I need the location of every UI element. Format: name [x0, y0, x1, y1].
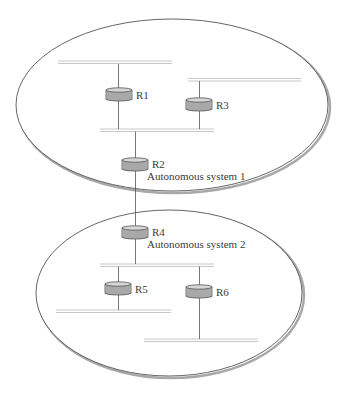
router-icon: [122, 158, 148, 171]
router-label: R2: [152, 158, 165, 170]
router-icon: [122, 226, 148, 239]
router-label: R5: [135, 283, 148, 295]
router-r1: R1: [106, 88, 149, 101]
router-label: R6: [216, 286, 229, 298]
router-label: R3: [216, 99, 229, 111]
router-icon: [105, 282, 131, 295]
router-r5: R5: [105, 282, 148, 295]
network-diagram: R1 R3 R2 R4 R5 R6 Autonomous system 1 Au…: [0, 0, 348, 396]
router-label: R1: [136, 89, 149, 101]
router-icon: [106, 88, 132, 101]
autonomous-system-2: [36, 210, 304, 378]
as1-label: Autonomous system 1: [147, 170, 245, 182]
router-icon: [186, 285, 212, 298]
router-icon: [186, 98, 212, 111]
router-r3: R3: [186, 98, 229, 111]
as2-label: Autonomous system 2: [147, 238, 245, 250]
autonomous-system-1: [16, 19, 330, 193]
router-r6: R6: [186, 285, 229, 298]
router-label: R4: [152, 226, 165, 238]
